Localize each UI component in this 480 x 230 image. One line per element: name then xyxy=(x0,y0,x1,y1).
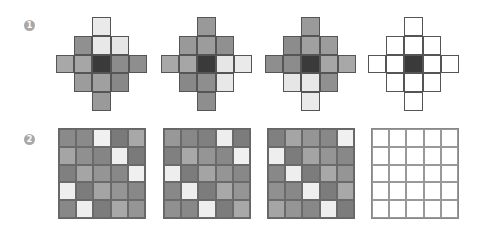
kernel-cell xyxy=(386,36,404,55)
kernel-cell xyxy=(161,55,179,74)
grid-cell xyxy=(128,147,145,165)
grid-cell xyxy=(181,182,198,200)
grid-cell xyxy=(128,129,145,147)
grid-cell xyxy=(233,165,250,183)
grid-cell xyxy=(268,165,285,183)
grid-cell xyxy=(285,165,302,183)
grid-cell xyxy=(164,147,181,165)
grid-cell xyxy=(128,182,145,200)
kernel-cell xyxy=(386,55,404,74)
center-cell xyxy=(197,55,215,74)
kernel-diamond-2 xyxy=(161,17,252,111)
grid-cell xyxy=(59,165,76,183)
kernel-cell xyxy=(179,55,197,74)
kernel-cell xyxy=(92,73,110,92)
grid-cell xyxy=(181,147,198,165)
kernel-cell xyxy=(216,73,234,92)
grid-cell xyxy=(59,200,76,218)
grid-cell xyxy=(389,200,406,218)
grid-cell xyxy=(372,147,389,165)
kernel-cell xyxy=(283,73,301,92)
grid-cell xyxy=(320,147,337,165)
grid-cell xyxy=(93,147,110,165)
kernel-cell xyxy=(74,36,92,55)
kernel-cell xyxy=(404,36,422,55)
kernel-diamond-empty xyxy=(368,17,459,111)
grid-cell xyxy=(59,129,76,147)
grid-cell xyxy=(111,182,128,200)
grid-cell xyxy=(198,200,215,218)
kernel-cell xyxy=(265,55,283,74)
grid-cell xyxy=(111,129,128,147)
kernel-cell xyxy=(234,55,252,74)
grid-cell xyxy=(111,200,128,218)
grid-cell xyxy=(406,182,423,200)
grid-cell xyxy=(389,182,406,200)
center-cell xyxy=(404,55,422,74)
grid-cell xyxy=(181,129,198,147)
grid-cell xyxy=(389,129,406,147)
kernel-cell xyxy=(197,17,215,36)
grid-cell xyxy=(285,129,302,147)
grid-cell xyxy=(216,182,233,200)
grid-cell xyxy=(128,200,145,218)
grid-cell xyxy=(164,200,181,218)
kernel-cell xyxy=(111,73,129,92)
grid-cell xyxy=(406,165,423,183)
kernel-cell xyxy=(216,36,234,55)
grid-cell xyxy=(337,165,354,183)
kernel-cell xyxy=(404,92,422,111)
kernel-cell xyxy=(92,17,110,36)
kernel-cell xyxy=(92,92,110,111)
grid-cell xyxy=(111,165,128,183)
grid-cell xyxy=(441,200,458,218)
kernel-cell xyxy=(197,92,215,111)
grid-cell xyxy=(337,200,354,218)
grid-cell xyxy=(164,129,181,147)
grid-cell xyxy=(216,129,233,147)
grid-cell xyxy=(128,165,145,183)
grid-cell xyxy=(181,165,198,183)
grid-cell xyxy=(389,165,406,183)
pixel-grid-2 xyxy=(163,128,251,219)
grid-cell xyxy=(198,165,215,183)
grid-cell xyxy=(337,129,354,147)
grid-cell xyxy=(424,182,441,200)
kernel-cell xyxy=(92,36,110,55)
grid-cell xyxy=(372,182,389,200)
kernel-cell xyxy=(441,55,459,74)
kernel-cell xyxy=(111,36,129,55)
grid-cell xyxy=(76,182,93,200)
grid-cell xyxy=(441,147,458,165)
kernel-cell xyxy=(283,36,301,55)
grid-cell xyxy=(76,147,93,165)
grid-cell xyxy=(164,165,181,183)
kernel-cell xyxy=(423,73,441,92)
kernel-cell xyxy=(74,55,92,74)
kernel-cell xyxy=(216,55,234,74)
grid-cell xyxy=(59,182,76,200)
center-cell xyxy=(92,55,110,74)
grid-cell xyxy=(406,147,423,165)
grid-cell xyxy=(216,147,233,165)
grid-cell xyxy=(76,165,93,183)
step-1-badge: 1 xyxy=(24,20,35,31)
grid-cell xyxy=(441,165,458,183)
pixel-grid-1 xyxy=(58,128,146,219)
kernel-cell xyxy=(129,55,147,74)
grid-cell xyxy=(233,200,250,218)
grid-cell xyxy=(198,147,215,165)
grid-cell xyxy=(302,182,319,200)
grid-cell xyxy=(268,147,285,165)
kernel-cell xyxy=(368,55,386,74)
kernel-cell xyxy=(197,36,215,55)
grid-cell xyxy=(111,147,128,165)
grid-cell xyxy=(424,129,441,147)
grid-cell xyxy=(268,129,285,147)
grid-cell xyxy=(424,200,441,218)
center-cell xyxy=(301,55,319,74)
grid-cell xyxy=(164,182,181,200)
grid-cell xyxy=(302,165,319,183)
grid-cell xyxy=(93,200,110,218)
grid-cell xyxy=(389,147,406,165)
